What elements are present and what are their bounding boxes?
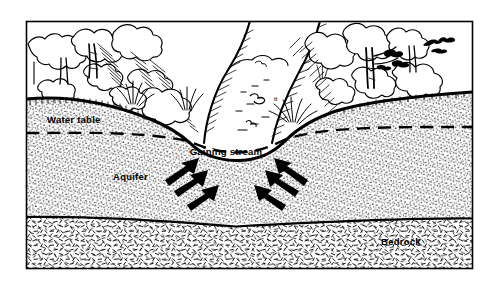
label-water-table: Water table [47, 114, 101, 125]
label-bedrock: Bedrock [381, 236, 421, 247]
figure-canvas: θ [0, 0, 502, 287]
label-gaining-stream: Gaining stream [190, 146, 263, 157]
gaining-stream-cross-section: θ [0, 0, 502, 287]
label-aquifer: Aquifer [113, 171, 148, 182]
